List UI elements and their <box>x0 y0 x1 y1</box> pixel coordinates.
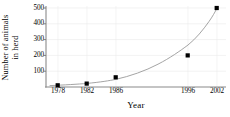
data-point-1996 <box>186 53 190 57</box>
data-point-1982 <box>85 82 89 86</box>
exponential-growth-chart: Number of animals in herd 500 400 300 20… <box>0 0 230 117</box>
data-point-1978 <box>56 83 60 87</box>
data-point-1986 <box>114 75 118 79</box>
vertical-gridlines <box>58 6 217 87</box>
data-point-markers <box>56 6 219 87</box>
horizontal-gridlines <box>46 8 226 71</box>
data-point-2002 <box>215 6 219 10</box>
exponential-fit-curve <box>50 8 217 85</box>
plot-area <box>0 0 230 117</box>
